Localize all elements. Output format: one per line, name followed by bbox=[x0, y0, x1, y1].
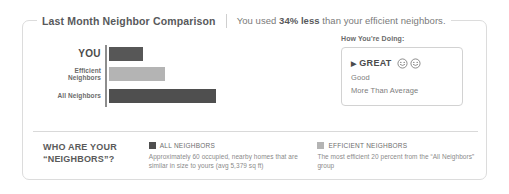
neighbor-comparison-chart: YOU EfficientNeighbors All Neighbors bbox=[23, 43, 323, 123]
bar-row: All Neighbors bbox=[23, 89, 107, 103]
legend-description-efficient-neighbors: The most efficient 20 percent from the “… bbox=[317, 152, 478, 170]
bar-all-neighbors bbox=[109, 89, 216, 103]
neighbor-comparison-card: Last Month Neighbor Comparison You used … bbox=[22, 20, 487, 180]
legend-swatch-efficient-neighbors bbox=[317, 142, 324, 149]
bar-label-efficient-neighbors: EfficientNeighbors bbox=[23, 67, 107, 82]
legend-item-efficient-neighbors: EFFICIENT NEIGHBORS The most efficient 2… bbox=[317, 142, 486, 170]
rating-label-good: Good bbox=[351, 73, 370, 82]
smiley-face-icon bbox=[397, 58, 408, 69]
legend-name-efficient-neighbors: EFFICIENT NEIGHBORS bbox=[328, 142, 407, 149]
how-youre-doing-title: How You're Doing: bbox=[341, 35, 463, 42]
legend-title-line2: “NEIGHBORS”? bbox=[43, 154, 114, 164]
rating-label-great: GREAT bbox=[359, 58, 391, 68]
rating-item-great: ▶ GREAT bbox=[351, 55, 453, 71]
legend-description-all-neighbors: Approximately 60 occupied, nearby homes … bbox=[149, 152, 310, 170]
bar-row: YOU bbox=[23, 47, 107, 61]
legend-title-line1: WHO ARE YOUR bbox=[43, 142, 117, 152]
usage-summary-prefix: You used bbox=[237, 15, 279, 26]
legend-name-all-neighbors: ALL NEIGHBORS bbox=[160, 142, 215, 149]
smiley-rating-group bbox=[397, 58, 421, 69]
how-youre-doing-panel: How You're Doing: ▶ GREAT bbox=[341, 35, 463, 106]
legend-header: ALL NEIGHBORS bbox=[149, 142, 310, 149]
caret-right-icon: ▶ bbox=[351, 60, 356, 67]
header-divider bbox=[226, 14, 227, 28]
legend-header: EFFICIENT NEIGHBORS bbox=[317, 142, 478, 149]
card-header: Last Month Neighbor Comparison You used … bbox=[37, 12, 451, 29]
legend-item-all-neighbors: ALL NEIGHBORS Approximately 60 occupied,… bbox=[149, 142, 318, 170]
section-divider bbox=[33, 131, 478, 132]
bar-label-all-neighbors: All Neighbors bbox=[23, 92, 107, 100]
legend-section: WHO ARE YOUR “NEIGHBORS”? ALL NEIGHBORS … bbox=[23, 142, 486, 170]
legend-section-title: WHO ARE YOUR “NEIGHBORS”? bbox=[23, 142, 149, 170]
rating-item-more-than-average: More Than Average bbox=[351, 84, 453, 97]
bar-label-you: YOU bbox=[23, 50, 107, 58]
rating-label-more-than-average: More Than Average bbox=[351, 86, 418, 95]
how-youre-doing-box: ▶ GREAT bbox=[341, 47, 463, 106]
bar-row: EfficientNeighbors bbox=[23, 67, 107, 81]
usage-summary: You used 34% less than your efficient ne… bbox=[237, 15, 446, 26]
bar-you bbox=[109, 47, 143, 61]
page-title: Last Month Neighbor Comparison bbox=[42, 15, 216, 27]
usage-summary-emphasis: 34% less bbox=[279, 15, 320, 26]
bar-efficient-neighbors bbox=[109, 67, 165, 81]
legend-swatch-all-neighbors bbox=[149, 142, 156, 149]
smiley-face-icon bbox=[410, 58, 421, 69]
rating-item-good: Good bbox=[351, 71, 453, 84]
usage-summary-suffix: than your efficient neighbors. bbox=[320, 15, 446, 26]
